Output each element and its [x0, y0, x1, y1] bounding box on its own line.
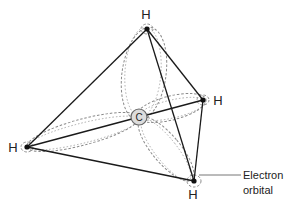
hydrogen-left-dot: [24, 144, 29, 149]
callout-line-2: orbital: [243, 184, 273, 196]
edge-top-right: [147, 29, 203, 100]
hydrogen-bottom-dot: [191, 178, 196, 183]
hydrogen-left-label: H: [8, 140, 17, 155]
hydrogen-atoms: H H H H: [8, 7, 222, 202]
hydrogen-right-label: H: [213, 93, 222, 108]
carbon-label: C: [135, 112, 142, 123]
edge-right-bottom: [194, 100, 203, 181]
edge-left-bottom: [27, 147, 194, 181]
tetrahedron-edges: [27, 29, 203, 181]
methane-diagram: C H H H H Electron orbital: [0, 0, 292, 206]
callout-line-1: Electron: [243, 169, 283, 181]
electron-orbital-callout: Electron orbital: [199, 169, 283, 196]
hydrogen-right-dot: [200, 97, 205, 102]
edge-top-bottom: [147, 29, 194, 181]
orbital-top: [116, 24, 173, 123]
carbon-atom: C: [131, 109, 147, 125]
hydrogen-top-dot: [144, 26, 149, 31]
orbital-left-inner: [25, 110, 140, 157]
hydrogen-top-label: H: [141, 7, 150, 22]
hydrogen-bottom-label: H: [188, 187, 197, 202]
edge-top-left: [27, 29, 147, 147]
